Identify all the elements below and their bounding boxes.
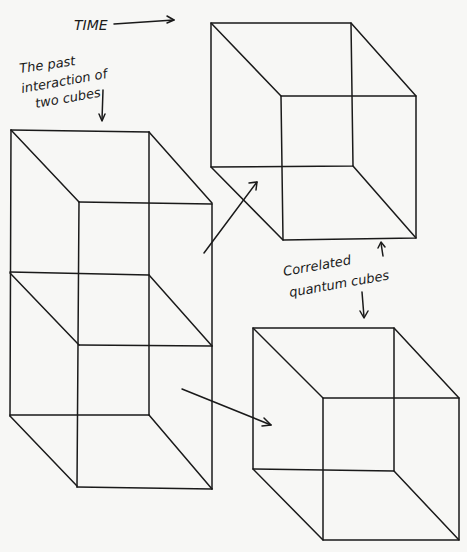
diagram-canvas: TIME The past interaction of two cubes: [0, 0, 467, 552]
label-arrow-up: [378, 242, 385, 256]
lower-correlated-cube: [253, 328, 459, 540]
upper-correlated-cube: [211, 23, 416, 240]
time-label: TIME: [74, 17, 108, 33]
label-arrow-down: [360, 292, 368, 318]
correlated-label: Correlated quantum cubes: [282, 252, 391, 300]
time-arrow: [114, 16, 174, 24]
arrow-to-lower-cube: [182, 389, 271, 426]
past-interaction-figure: [10, 130, 212, 489]
past-interaction-label: The past interaction of two cubes: [18, 53, 110, 111]
